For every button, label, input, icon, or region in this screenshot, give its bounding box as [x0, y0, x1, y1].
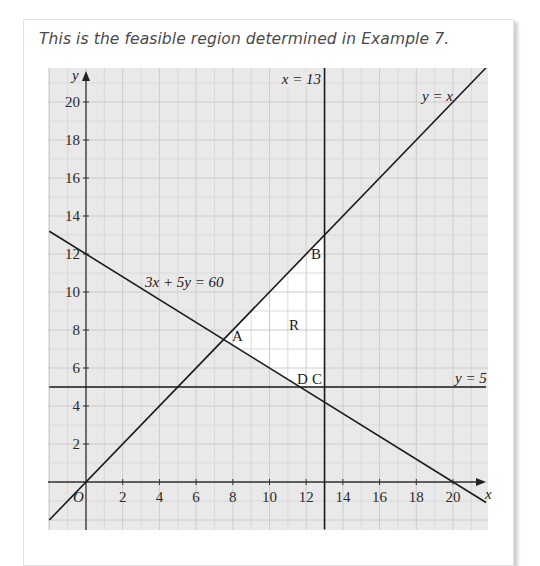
- origin-label: O: [73, 489, 84, 505]
- y-tick-label: 10: [65, 284, 80, 300]
- point-label-B: B: [311, 246, 321, 262]
- point-label-D: D: [297, 371, 308, 387]
- label-3x-plus-5y-equals-60: 3x + 5y = 60: [144, 274, 224, 290]
- point-label-C: C: [312, 371, 322, 387]
- y-tick-label: 20: [65, 94, 80, 110]
- y-tick-label: 18: [65, 132, 80, 148]
- x-axis-label: x: [484, 486, 492, 502]
- y-tick-label: 4: [73, 398, 81, 414]
- y-tick-label: 2: [73, 436, 81, 452]
- y-tick-label: 6: [73, 360, 81, 376]
- y-axis-label: y: [70, 67, 79, 83]
- point-label-A: A: [232, 328, 243, 344]
- x-tick-label: 4: [156, 489, 164, 505]
- x-tick-label: 20: [446, 489, 461, 505]
- x-tick-label: 18: [409, 489, 424, 505]
- x-tick-label: 8: [229, 489, 237, 505]
- label-y-equals-5: y = 5: [453, 370, 487, 386]
- x-tick-label: 10: [262, 489, 277, 505]
- y-tick-label: 8: [73, 322, 81, 338]
- y-tick-label: 16: [65, 170, 81, 186]
- x-tick-label: 16: [372, 489, 388, 505]
- x-tick-label: 12: [299, 489, 314, 505]
- y-tick-label: 14: [65, 208, 81, 224]
- label-x-equals-13: x = 13: [281, 71, 321, 87]
- region-label-R: R: [289, 317, 299, 333]
- label-y-equals-x: y = x: [420, 88, 453, 104]
- x-tick-label: 14: [335, 489, 351, 505]
- x-tick-label: 2: [119, 489, 127, 505]
- x-tick-label: 6: [192, 489, 200, 505]
